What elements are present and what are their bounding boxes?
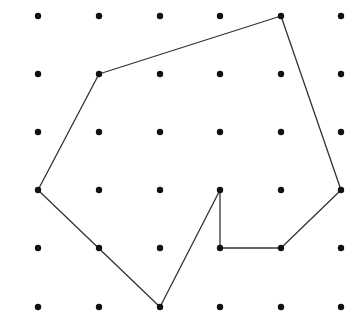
grid-dot [217,13,223,19]
grid-dot [96,129,102,135]
grid-dot [217,245,223,251]
grid-dot [278,13,284,19]
grid-dot [338,71,344,77]
grid-dot [157,304,163,310]
grid-dot [35,71,41,77]
dot-grid-diagram [0,0,363,317]
grid-dot [35,13,41,19]
polygon-shape [38,16,341,307]
grid-dot [338,13,344,19]
grid-dot [278,187,284,193]
grid-dot [35,129,41,135]
grid-dot [338,129,344,135]
grid-dot [35,304,41,310]
dot-grid [35,13,344,310]
polygon-outline [38,16,341,307]
grid-dot [96,304,102,310]
grid-dot [96,187,102,193]
grid-dot [278,129,284,135]
grid-dot [35,245,41,251]
grid-dot [157,129,163,135]
grid-dot [96,245,102,251]
grid-dot [217,187,223,193]
grid-dot [338,304,344,310]
grid-dot [278,71,284,77]
grid-dot [157,13,163,19]
grid-dot [217,129,223,135]
grid-dot [338,187,344,193]
grid-dot [217,304,223,310]
grid-dot [157,71,163,77]
grid-dot [96,13,102,19]
grid-dot [35,187,41,193]
grid-dot [157,245,163,251]
grid-dot [96,71,102,77]
grid-dot [278,245,284,251]
grid-dot [338,245,344,251]
grid-dot [278,304,284,310]
grid-dot [157,187,163,193]
grid-dot [217,71,223,77]
